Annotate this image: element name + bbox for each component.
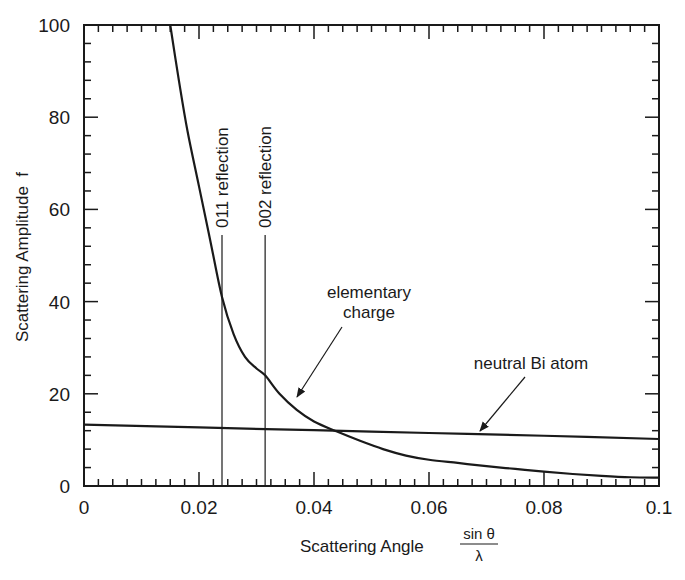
x-axis-tick-labels: 00.020.040.060.080.1: [79, 497, 673, 518]
plot-frame: [84, 25, 659, 486]
y-axis-tick-labels: 020406080100: [38, 15, 70, 497]
x-axis-title-fraction: sin θ λ: [460, 525, 498, 564]
annotation-elementary-charge: elementary charge: [297, 283, 412, 397]
annotation-text: neutral Bi atom: [474, 354, 588, 373]
annotation-neutral-bi-atom: neutral Bi atom: [474, 354, 588, 431]
axis-ticks: [84, 25, 659, 486]
reflection-markers: 011 reflection002 reflection: [213, 126, 275, 486]
arrow-neutral-bi-atom: [480, 377, 525, 431]
scattering-amplitude-chart: 00.020.040.060.080.1 020406080100 011 re…: [0, 0, 685, 580]
x-tick-label: 0: [79, 497, 90, 518]
reflection-label: 002 reflection: [256, 126, 275, 228]
data-series: [84, 25, 659, 478]
x-tick-label: 0.06: [411, 497, 448, 518]
x-tick-label: 0.08: [526, 497, 563, 518]
arrow-elementary-charge: [297, 327, 342, 397]
reflection-label: 011 reflection: [213, 127, 232, 228]
y-tick-label: 80: [49, 107, 70, 128]
y-axis-title: Scattering Amplitude f: [13, 172, 32, 342]
x-tick-label: 0.1: [646, 497, 672, 518]
x-tick-label: 0.02: [181, 497, 218, 518]
y-tick-label: 60: [49, 199, 70, 220]
series-elementary-charge: [170, 25, 659, 478]
y-tick-label: 100: [38, 15, 70, 36]
y-tick-label: 40: [49, 292, 70, 313]
annotation-text-line-1: elementary: [327, 283, 412, 302]
y-tick-label: 0: [59, 476, 70, 497]
series-neutral-bi-atom: [84, 425, 659, 439]
fraction-denominator: λ: [475, 547, 483, 564]
fraction-numerator: sin θ: [463, 525, 495, 542]
annotation-text-line-2: charge: [343, 303, 395, 322]
x-axis-title: Scattering Angle: [300, 537, 424, 556]
x-tick-label: 0.04: [296, 497, 333, 518]
y-tick-label: 20: [49, 384, 70, 405]
